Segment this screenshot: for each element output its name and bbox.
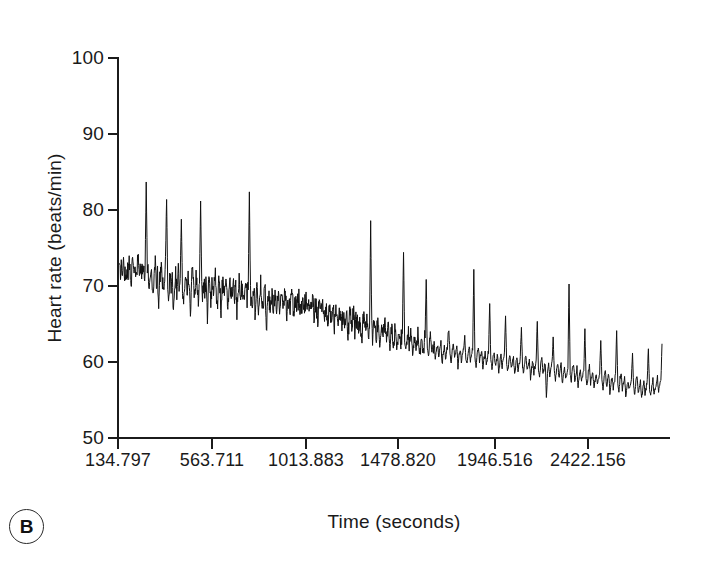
- panel-label-b: B: [9, 509, 44, 544]
- y-tick-60: [108, 361, 117, 363]
- y-tick-100: [108, 57, 117, 59]
- y-tick-90: [108, 133, 117, 135]
- x-tick-label-2: 1013.883: [268, 451, 344, 471]
- x-tick-5: [587, 439, 589, 449]
- figure-panel-b: 1009080706050 134.797563.7111013.8831478…: [0, 0, 702, 564]
- y-tick-50: [108, 437, 117, 439]
- x-tick-label-4: 1946.516: [457, 451, 533, 471]
- x-tick-label-3: 1478.820: [360, 451, 436, 471]
- x-tick-label-0: 134.797: [85, 451, 151, 471]
- x-tick-4: [494, 439, 496, 449]
- y-axis-line: [117, 57, 119, 439]
- x-tick-label-1: 563.711: [180, 451, 244, 471]
- x-tick-1: [211, 439, 213, 449]
- x-tick-3: [397, 439, 399, 449]
- y-axis-label: Heart rate (beats/min): [44, 58, 74, 438]
- data-trace: [0, 0, 702, 564]
- x-tick-2: [305, 439, 307, 449]
- y-tick-80: [108, 209, 117, 211]
- y-tick-70: [108, 285, 117, 287]
- x-tick-label-5: 2422.156: [550, 451, 626, 471]
- x-axis-label: Time (seconds): [118, 511, 670, 533]
- x-tick-0: [117, 439, 119, 449]
